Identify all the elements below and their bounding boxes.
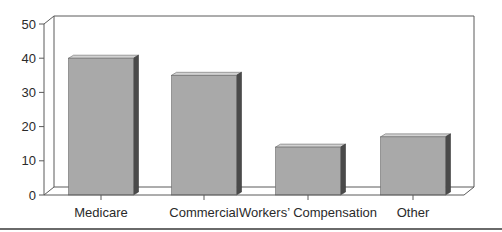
y-tick-label: 0 — [29, 188, 36, 203]
y-tick-label: 30 — [22, 85, 36, 100]
x-tick-label: Medicare — [74, 205, 127, 220]
chart-canvas: 01020304050 MedicareCommercialWorkers’ C… — [0, 0, 502, 232]
x-tick-label: Other — [397, 205, 430, 220]
bar-other — [381, 134, 451, 195]
bar-workers-compensation — [276, 144, 346, 195]
bar-medicare — [69, 55, 139, 195]
bar-chart: 01020304050 MedicareCommercialWorkers’ C… — [0, 0, 502, 232]
bar-commercial — [172, 72, 242, 195]
bars-group — [69, 55, 451, 195]
y-tick-label: 20 — [22, 119, 36, 134]
y-tick-label: 50 — [22, 17, 36, 32]
x-tick-label: Commercial — [169, 205, 238, 220]
x-axis: MedicareCommercialWorkers’ CompensationO… — [74, 195, 430, 220]
x-tick-label: Workers’ Compensation — [239, 205, 377, 220]
bottom-divider — [0, 228, 502, 230]
y-tick-label: 10 — [22, 153, 36, 168]
y-tick-label: 40 — [22, 51, 36, 66]
